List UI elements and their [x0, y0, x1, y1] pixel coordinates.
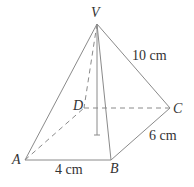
edge-VA — [25, 24, 97, 160]
measure-BC: 6 cm — [149, 128, 177, 143]
measure-AB: 4 cm — [55, 162, 83, 177]
label-A: A — [11, 152, 21, 167]
label-V: V — [91, 5, 101, 20]
edge-AD-hidden — [25, 108, 84, 160]
label-B: B — [110, 161, 119, 176]
pyramid-diagram: V A B C D 4 cm 6 cm 10 cm — [0, 0, 194, 187]
edge-VC — [97, 24, 170, 108]
measure-VC: 10 cm — [132, 48, 167, 63]
edge-VB — [97, 24, 111, 160]
label-C: C — [173, 101, 183, 116]
label-D: D — [72, 98, 83, 113]
